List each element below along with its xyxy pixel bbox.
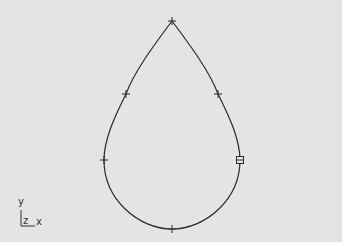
knot-plus-icon[interactable] <box>100 156 108 164</box>
axis-triad: y z x <box>18 196 42 227</box>
grip-square-icon[interactable] <box>237 157 244 164</box>
3d-viewport[interactable]: y z x <box>0 0 342 242</box>
knot-plus-icon[interactable] <box>214 90 222 98</box>
viewport-canvas[interactable]: y z x <box>0 0 346 246</box>
x-axis-label: x <box>36 216 42 227</box>
knot-plus-icon[interactable] <box>122 90 130 98</box>
y-axis-label: y <box>18 196 24 207</box>
teardrop-curve[interactable] <box>104 21 240 229</box>
knot-markers <box>100 17 244 233</box>
knot-plus-icon[interactable] <box>168 225 176 233</box>
z-axis-label: z <box>23 215 28 226</box>
